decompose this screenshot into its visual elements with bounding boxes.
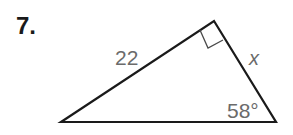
angle-label-58: 58° [227,99,259,122]
triangle-figure: 22 x 58° [0,0,293,135]
side-label-x: x [248,47,260,69]
right-angle-marker-icon [200,30,223,48]
side-label-22: 22 [115,46,138,69]
problem-canvas: 7. 22 x 58° [0,0,293,135]
